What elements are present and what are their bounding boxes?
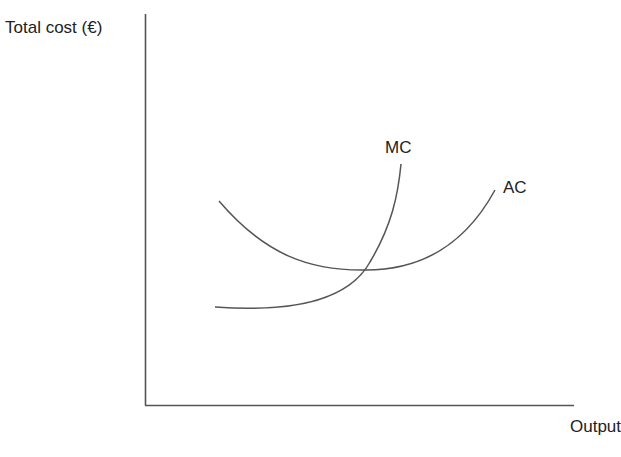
mc-curve-label: MC (385, 138, 411, 158)
x-axis-label: Output (570, 417, 621, 437)
y-axis-label: Total cost (€) (5, 18, 102, 38)
ac-curve-label: AC (503, 178, 527, 198)
mc-curve (215, 164, 401, 308)
ac-curve (219, 190, 495, 270)
